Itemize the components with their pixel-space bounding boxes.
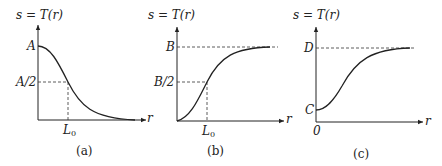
panel-b: s = T(r) r B B/2 L0 (b) xyxy=(148,8,293,158)
caption-a: (a) xyxy=(76,144,93,158)
tick-B-half: B/2 xyxy=(153,75,175,89)
increasing-sigmoid-curve xyxy=(316,48,410,110)
x-axis-label: r xyxy=(425,114,432,128)
tick-C: C xyxy=(305,103,314,117)
increasing-sigmoid-curve xyxy=(177,47,270,121)
decreasing-sigmoid-curve xyxy=(38,46,135,120)
tick-A: A xyxy=(26,39,36,53)
tick-L0: L0 xyxy=(201,124,215,139)
tick-zero: 0 xyxy=(313,124,321,138)
y-axis-label: s = T(r) xyxy=(293,8,340,22)
x-axis-label: r xyxy=(147,111,154,125)
tick-B: B xyxy=(165,40,175,54)
tick-D: D xyxy=(303,41,314,55)
panel-c: s = T(r) r D C 0 (c) xyxy=(293,8,432,161)
caption-c: (c) xyxy=(353,147,369,161)
x-axis-label: r xyxy=(286,112,293,126)
tick-L0: L0 xyxy=(62,123,76,138)
y-axis-label: s = T(r) xyxy=(16,8,63,22)
panel-a: s = T(r) r A A/2 L0 (a) xyxy=(15,8,154,158)
caption-b: (b) xyxy=(207,144,224,158)
y-axis-label: s = T(r) xyxy=(148,8,195,22)
transformation-functions-figure: s = T(r) r A A/2 L0 (a) s = T(r) r B B/2… xyxy=(0,0,442,166)
tick-A-half: A/2 xyxy=(15,75,36,89)
